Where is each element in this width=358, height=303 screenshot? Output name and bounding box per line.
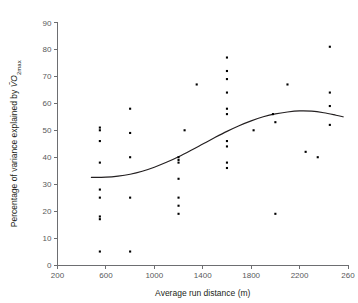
y-axis-tick-marks bbox=[54, 23, 58, 266]
y-axis-title-text: Percentage of variance explained by ṼO2m… bbox=[9, 60, 22, 227]
x-axis-tick-labels: 2006001000140018002200260 bbox=[51, 271, 355, 280]
data-point bbox=[305, 151, 307, 153]
y-tick-label: 10 bbox=[43, 234, 52, 243]
data-point bbox=[196, 83, 198, 85]
data-point bbox=[129, 250, 131, 252]
data-point bbox=[129, 108, 131, 110]
x-axis-title: Average run distance (m) bbox=[155, 288, 250, 298]
y-tick-label: 90 bbox=[43, 19, 52, 28]
y-tick-label: 40 bbox=[43, 153, 52, 162]
data-point bbox=[177, 205, 179, 207]
y-tick-label: 30 bbox=[43, 180, 52, 189]
x-tick-label: 1800 bbox=[242, 271, 260, 280]
y-tick-label: 0 bbox=[47, 261, 52, 270]
y-tick-label: 80 bbox=[43, 45, 52, 54]
x-tick-label: 600 bbox=[99, 271, 113, 280]
data-point bbox=[99, 215, 101, 217]
data-point bbox=[226, 167, 228, 169]
x-tick-label: 2200 bbox=[291, 271, 309, 280]
x-tick-label: 1000 bbox=[145, 271, 163, 280]
y-axis-tick-labels: 0102030405060708090 bbox=[43, 19, 52, 271]
data-point bbox=[177, 159, 179, 161]
data-point bbox=[226, 92, 228, 94]
data-point bbox=[226, 162, 228, 164]
x-tick-label: 260 bbox=[341, 271, 355, 280]
y-tick-label: 60 bbox=[43, 99, 52, 108]
data-point bbox=[329, 46, 331, 48]
data-point bbox=[129, 197, 131, 199]
y-axis-title: Percentage of variance explained by ṼO2m… bbox=[9, 60, 22, 227]
data-point bbox=[226, 56, 228, 58]
data-point bbox=[99, 162, 101, 164]
data-point bbox=[272, 113, 274, 115]
data-point bbox=[329, 92, 331, 94]
data-point bbox=[274, 121, 276, 123]
data-point bbox=[177, 156, 179, 158]
data-point bbox=[329, 124, 331, 126]
x-axis-tick-marks bbox=[58, 265, 349, 269]
data-point bbox=[99, 129, 101, 131]
data-point bbox=[226, 140, 228, 142]
data-point bbox=[177, 213, 179, 215]
data-point bbox=[184, 129, 186, 131]
x-tick-label: 1400 bbox=[194, 271, 212, 280]
data-point bbox=[274, 213, 276, 215]
y-tick-label: 20 bbox=[43, 207, 52, 216]
chart-svg: 0102030405060708090 20060010001400180022… bbox=[0, 0, 358, 303]
data-point bbox=[99, 250, 101, 252]
y-tick-label: 50 bbox=[43, 126, 52, 135]
data-point bbox=[226, 113, 228, 115]
data-point bbox=[99, 127, 101, 129]
data-point bbox=[129, 156, 131, 158]
data-point bbox=[177, 162, 179, 164]
data-point bbox=[99, 140, 101, 142]
data-point bbox=[129, 132, 131, 134]
data-point bbox=[226, 70, 228, 72]
data-point bbox=[177, 178, 179, 180]
scatter-plot-figure: 0102030405060708090 20060010001400180022… bbox=[0, 0, 358, 303]
x-tick-label: 200 bbox=[51, 271, 65, 280]
data-point bbox=[329, 105, 331, 107]
data-point bbox=[99, 189, 101, 191]
data-point bbox=[286, 83, 288, 85]
data-points-group bbox=[99, 46, 331, 253]
data-point bbox=[226, 108, 228, 110]
data-point bbox=[226, 145, 228, 147]
data-point bbox=[226, 78, 228, 80]
y-tick-label: 70 bbox=[43, 72, 52, 81]
data-point bbox=[253, 129, 255, 131]
data-point bbox=[177, 197, 179, 199]
trend-line bbox=[91, 111, 343, 178]
data-point bbox=[99, 197, 101, 199]
data-point bbox=[317, 156, 319, 158]
data-point bbox=[99, 218, 101, 220]
